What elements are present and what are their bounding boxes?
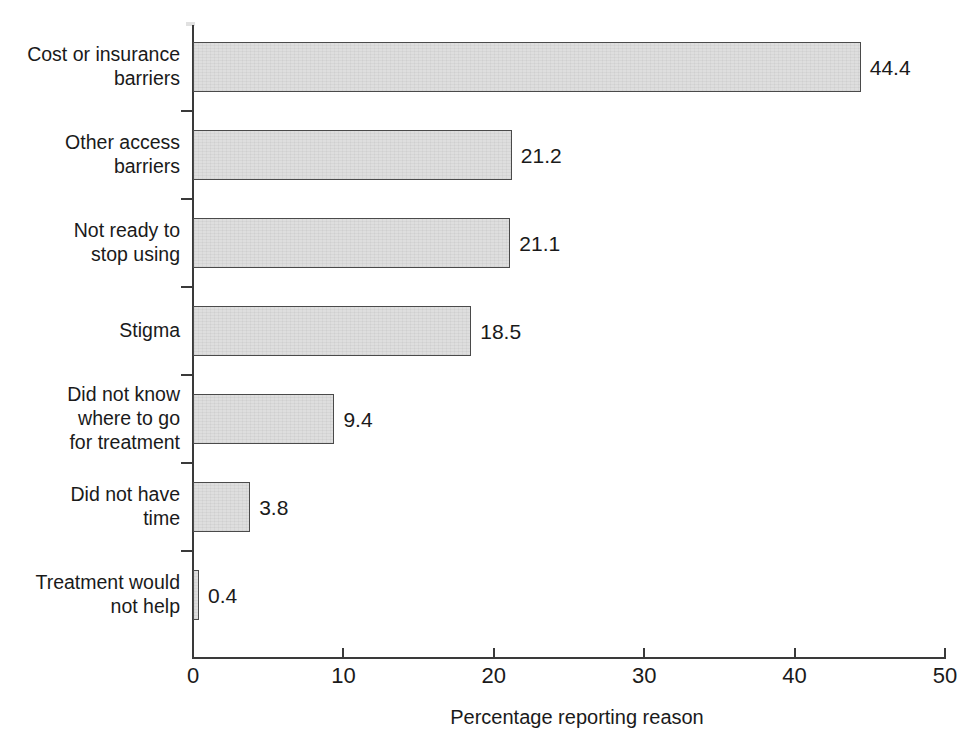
x-axis-title: Percentage reporting reason bbox=[0, 706, 974, 729]
x-axis-tick bbox=[192, 640, 194, 659]
bar-value-label: 21.2 bbox=[521, 145, 562, 166]
bar-row: Cost or insurance barriers44.4 bbox=[0, 42, 974, 92]
bar-value-label: 18.5 bbox=[480, 321, 521, 342]
bar bbox=[193, 42, 861, 92]
bar-value-label: 21.1 bbox=[519, 233, 560, 254]
bar-value-label: 44.4 bbox=[870, 57, 911, 78]
category-label-wrap: Not ready to stop using bbox=[0, 218, 180, 268]
x-axis-tick-label: 20 bbox=[482, 665, 506, 687]
category-label: Treatment would not help bbox=[0, 571, 180, 619]
bar-row: Stigma18.5 bbox=[0, 306, 974, 356]
category-label-wrap: Did not know where to go for treatment bbox=[0, 394, 180, 444]
y-axis-tick bbox=[181, 286, 193, 288]
bar bbox=[193, 570, 199, 620]
y-axis-tick bbox=[181, 462, 193, 464]
category-label-wrap: Did not have time bbox=[0, 482, 180, 532]
x-axis-tick-label: 50 bbox=[933, 665, 957, 687]
bar-chart: 01020304050 Percentage reporting reason … bbox=[0, 0, 974, 745]
category-label: Stigma bbox=[0, 319, 180, 343]
bar-value-label: 3.8 bbox=[259, 497, 288, 518]
bar-row: Not ready to stop using21.1 bbox=[0, 218, 974, 268]
y-axis-tick bbox=[181, 110, 193, 112]
bar bbox=[193, 306, 471, 356]
category-label: Other access barriers bbox=[0, 131, 180, 179]
bar-row: Did not have time3.8 bbox=[0, 482, 974, 532]
category-label-wrap: Treatment would not help bbox=[0, 570, 180, 620]
y-axis-tick bbox=[181, 374, 193, 376]
x-axis-tick bbox=[944, 648, 946, 659]
bar bbox=[193, 218, 510, 268]
x-axis-tick-label: 40 bbox=[782, 665, 806, 687]
y-axis-tick bbox=[181, 550, 193, 552]
category-label: Did not have time bbox=[0, 483, 180, 531]
bar-value-label: 9.4 bbox=[343, 409, 372, 430]
x-axis-tick-label: 0 bbox=[187, 665, 199, 687]
y-axis-tick bbox=[181, 198, 193, 200]
x-axis-tick bbox=[794, 648, 796, 659]
x-axis-tick-label: 30 bbox=[632, 665, 656, 687]
x-axis-tick bbox=[342, 648, 344, 659]
category-label-wrap: Cost or insurance barriers bbox=[0, 42, 180, 92]
bar bbox=[193, 394, 334, 444]
category-label: Not ready to stop using bbox=[0, 219, 180, 267]
category-label: Cost or insurance barriers bbox=[0, 43, 180, 91]
bar bbox=[193, 130, 512, 180]
x-axis-tick bbox=[643, 648, 645, 659]
bar-row: Did not know where to go for treatment9.… bbox=[0, 394, 974, 444]
x-axis-tick bbox=[493, 648, 495, 659]
bar-value-label: 0.4 bbox=[208, 585, 237, 606]
category-label: Did not know where to go for treatment bbox=[0, 383, 180, 454]
category-label-wrap: Stigma bbox=[0, 306, 180, 356]
bar bbox=[193, 482, 250, 532]
bar-row: Treatment would not help0.4 bbox=[0, 570, 974, 620]
bar-row: Other access barriers21.2 bbox=[0, 130, 974, 180]
x-axis-title-text: Percentage reporting reason bbox=[450, 706, 704, 728]
x-axis-tick-label: 10 bbox=[331, 665, 355, 687]
category-label-wrap: Other access barriers bbox=[0, 130, 180, 180]
